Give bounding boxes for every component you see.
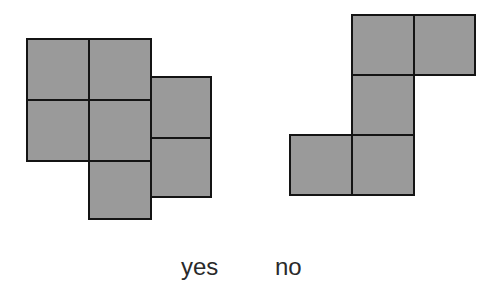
yes-shape-cell — [88, 160, 152, 220]
yes-shape-cell — [88, 38, 152, 101]
yes-shape-cell — [150, 76, 212, 139]
label-yes: yes — [181, 255, 218, 279]
no-shape-cell — [351, 74, 415, 136]
no-shape-cell — [413, 14, 476, 76]
yes-shape-cell — [88, 99, 152, 162]
no-shape-cell — [289, 134, 353, 196]
no-shape-cell — [351, 14, 415, 76]
yes-shape-cell — [150, 137, 212, 198]
yes-shape-cell — [26, 99, 90, 162]
label-no: no — [275, 255, 302, 279]
no-shape-cell — [351, 134, 415, 196]
yes-shape-cell — [26, 38, 90, 101]
